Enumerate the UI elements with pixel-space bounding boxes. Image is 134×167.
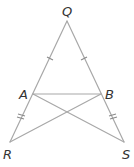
label-A: A [18,87,28,102]
label-B: B [105,87,114,102]
triangle-diagram: Q A B R S [0,0,134,167]
segment-QS [67,21,124,142]
label-Q: Q [62,4,72,19]
double-tick-AR [17,114,25,119]
segment-QR [10,21,67,142]
label-R: R [3,147,12,162]
label-S: S [122,147,130,162]
double-tick-BS [109,114,117,119]
